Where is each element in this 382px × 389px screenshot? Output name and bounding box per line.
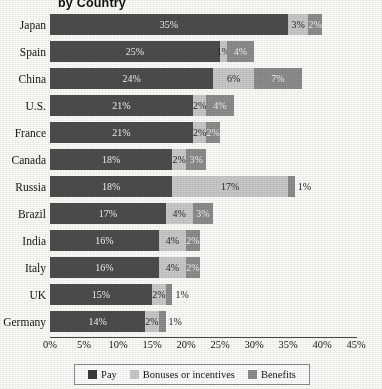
bar-segment-benefit: 4% xyxy=(227,41,254,62)
x-axis-tick: 45% xyxy=(346,339,365,350)
bar-segment-bonus: 2% xyxy=(172,149,186,170)
bar-segment-value: 14% xyxy=(88,317,106,327)
bar-segment-pay: 24% xyxy=(50,68,213,89)
category-label: India xyxy=(0,230,46,251)
chart-title: by Country xyxy=(58,0,258,10)
bar-segment-benefit: 3% xyxy=(193,203,213,224)
bar-segment-bonus: 1% xyxy=(220,41,227,62)
bar-segment-value-outside: 1% xyxy=(172,284,206,305)
bar-segment-bonus: 4% xyxy=(166,203,193,224)
bar-segment-value: 6% xyxy=(227,74,240,84)
bar-segment-benefit: 2% xyxy=(186,230,200,251)
bar-segment-pay: 25% xyxy=(50,41,220,62)
legend-swatch-icon xyxy=(248,370,257,379)
legend-label: Benefits xyxy=(261,369,296,380)
legend-item[interactable]: Pay xyxy=(88,369,117,380)
bar-segment-pay: 17% xyxy=(50,203,166,224)
bar-segment-value: 17% xyxy=(221,182,239,192)
bar-row: 17%4%3% xyxy=(50,203,356,224)
bar-segment-value: 16% xyxy=(95,263,113,273)
bar-segment-value: 18% xyxy=(102,155,120,165)
x-axis-tick: 10% xyxy=(108,339,127,350)
plot-area: 35%3%2%25%1%4%24%6%7%21%2%4%21%2%2%18%2%… xyxy=(50,13,356,337)
bar-segment-value: 4% xyxy=(213,101,226,111)
stacked-bar-chart: by Country 35%3%2%25%1%4%24%6%7%21%2%4%2… xyxy=(0,0,382,389)
bar-row: 14%2%1% xyxy=(50,311,356,332)
legend-swatch-icon xyxy=(88,370,97,379)
bar-segment-pay: 16% xyxy=(50,257,159,278)
bar-segment-value: 35% xyxy=(160,20,178,30)
bar-segment-value: 7% xyxy=(271,74,284,84)
legend-swatch-icon xyxy=(130,370,139,379)
bar-row: 18%2%3% xyxy=(50,149,356,170)
legend-item[interactable]: Benefits xyxy=(248,369,296,380)
bar-segment-benefit: 2% xyxy=(186,257,200,278)
legend-label: Pay xyxy=(101,369,117,380)
x-axis-tick: 40% xyxy=(312,339,331,350)
bar-segment-value: 3% xyxy=(292,20,305,30)
bar-segment-value: 2% xyxy=(207,128,220,138)
bar-segment-value: 2% xyxy=(145,317,158,327)
bar-segment-value: 2% xyxy=(173,155,186,165)
category-label: Italy xyxy=(0,257,46,278)
category-label: Germany xyxy=(0,311,46,332)
bar-row: 15%2%1% xyxy=(50,284,356,305)
x-axis-tick-labels: 0%5%10%15%20%25%30%35%40%45% xyxy=(0,339,382,355)
bar-segment-value: 3% xyxy=(190,155,203,165)
bar-segment-bonus: 2% xyxy=(193,95,207,116)
x-axis-tick: 35% xyxy=(278,339,297,350)
bar-segment-value-outside: 1% xyxy=(295,176,329,197)
bar-row: 24%6%7% xyxy=(50,68,356,89)
bar-segment-pay: 35% xyxy=(50,14,288,35)
bar-segment-value: 16% xyxy=(95,236,113,246)
legend-label: Bonuses or incentives xyxy=(143,369,235,380)
bar-segment-bonus: 2% xyxy=(152,284,166,305)
bar-segment-value: 2% xyxy=(193,101,206,111)
category-label: Russia xyxy=(0,176,46,197)
x-axis-tick: 0% xyxy=(43,339,57,350)
category-label: Japan xyxy=(0,14,46,35)
bar-segment-pay: 18% xyxy=(50,149,172,170)
legend-item[interactable]: Bonuses or incentives xyxy=(130,369,235,380)
bar-segment-benefit xyxy=(288,176,295,197)
bar-segment-value: 15% xyxy=(92,290,110,300)
bar-segment-benefit: 4% xyxy=(206,95,233,116)
bar-segment-value: 4% xyxy=(166,263,179,273)
bar-segment-value: 2% xyxy=(193,128,206,138)
bar-segment-benefit xyxy=(159,311,166,332)
category-label: UK xyxy=(0,284,46,305)
bar-segment-value: 2% xyxy=(309,20,322,30)
category-label: Canada xyxy=(0,149,46,170)
bar-segment-value: 1% xyxy=(172,290,188,300)
x-axis-tick: 5% xyxy=(77,339,91,350)
bar-row: 16%4%2% xyxy=(50,230,356,251)
bar-segment-pay: 21% xyxy=(50,95,193,116)
bar-segment-pay: 18% xyxy=(50,176,172,197)
bar-segment-benefit: 2% xyxy=(206,122,220,143)
bar-row: 21%2%2% xyxy=(50,122,356,143)
bar-row: 25%1%4% xyxy=(50,41,356,62)
bar-segment-value: 3% xyxy=(196,209,209,219)
bar-segment-pay: 15% xyxy=(50,284,152,305)
bar-segment-value: 17% xyxy=(99,209,117,219)
bar-row: 16%4%2% xyxy=(50,257,356,278)
bar-segment-pay: 21% xyxy=(50,122,193,143)
x-axis-tick: 30% xyxy=(244,339,263,350)
bar-row: 21%2%4% xyxy=(50,95,356,116)
bar-segment-bonus: 17% xyxy=(172,176,288,197)
bar-segment-value: 25% xyxy=(126,47,144,57)
bar-segment-value: 18% xyxy=(102,182,120,192)
bar-segment-bonus: 6% xyxy=(213,68,254,89)
bar-segment-benefit: 7% xyxy=(254,68,302,89)
category-label: U.S. xyxy=(0,95,46,116)
bar-segment-bonus: 2% xyxy=(193,122,207,143)
bar-segment-value: 1% xyxy=(166,317,182,327)
category-label: China xyxy=(0,68,46,89)
x-axis-tick: 15% xyxy=(142,339,161,350)
bar-row: 18%17%1% xyxy=(50,176,356,197)
bar-segment-value: 4% xyxy=(173,209,186,219)
bar-segment-pay: 16% xyxy=(50,230,159,251)
bar-segment-benefit: 3% xyxy=(186,149,206,170)
bar-segment-value: 4% xyxy=(166,236,179,246)
bar-segment-bonus: 4% xyxy=(159,230,186,251)
